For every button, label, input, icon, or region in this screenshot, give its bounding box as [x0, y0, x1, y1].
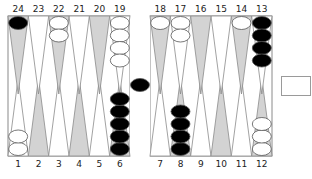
black-checker[interactable]	[110, 118, 129, 131]
point-label-3: 3	[56, 159, 62, 169]
point-label-20: 20	[94, 4, 106, 14]
point-label-2: 2	[36, 159, 42, 169]
point-label-17: 17	[175, 4, 186, 14]
point-label-22: 22	[53, 4, 64, 14]
black-checker[interactable]	[252, 54, 271, 67]
white-checker[interactable]	[171, 29, 190, 42]
point-label-5: 5	[97, 159, 103, 169]
white-checker[interactable]	[252, 143, 271, 156]
point-label-21: 21	[73, 4, 84, 14]
white-checker[interactable]	[49, 17, 68, 30]
point-label-19: 19	[114, 4, 126, 14]
black-checker[interactable]	[9, 17, 28, 30]
black-checker[interactable]	[110, 93, 129, 106]
point-label-7: 7	[157, 159, 163, 169]
white-checker[interactable]	[110, 29, 129, 42]
point-label-16: 16	[195, 4, 207, 14]
white-checker[interactable]	[110, 42, 129, 55]
black-checker[interactable]	[110, 105, 129, 118]
point-label-15: 15	[215, 4, 226, 14]
black-checker[interactable]	[171, 130, 190, 143]
white-checker[interactable]	[49, 29, 68, 42]
black-checker[interactable]	[171, 143, 190, 156]
point-label-11: 11	[236, 159, 247, 169]
white-checker[interactable]	[9, 130, 28, 143]
doubling-cube[interactable]	[281, 76, 311, 96]
point-label-13: 13	[256, 4, 267, 14]
top-point-labels: 242322212019181716151413	[12, 4, 267, 14]
black-checker[interactable]	[252, 29, 271, 42]
white-checker[interactable]	[252, 130, 271, 143]
white-checker[interactable]	[151, 17, 170, 30]
point-label-18: 18	[154, 4, 166, 14]
point-label-14: 14	[236, 4, 248, 14]
point-label-24: 24	[12, 4, 24, 14]
black-checker[interactable]	[110, 130, 129, 143]
point-label-1: 1	[15, 159, 21, 169]
white-checker[interactable]	[110, 54, 129, 67]
black-checker[interactable]	[252, 42, 271, 55]
bar-black-checker[interactable]	[131, 79, 150, 92]
point-label-9: 9	[198, 159, 204, 169]
white-checker[interactable]	[9, 143, 28, 156]
white-checker[interactable]	[171, 17, 190, 30]
white-checker[interactable]	[252, 118, 271, 131]
point-label-12: 12	[256, 159, 267, 169]
black-checker[interactable]	[110, 143, 129, 156]
point-label-6: 6	[117, 159, 123, 169]
backgammon-board: 242322212019181716151413 123456789101112	[0, 0, 312, 179]
point-label-8: 8	[178, 159, 184, 169]
black-checker[interactable]	[171, 118, 190, 131]
white-checker[interactable]	[232, 17, 251, 30]
point-label-10: 10	[215, 159, 227, 169]
black-checker[interactable]	[252, 17, 271, 30]
point-label-4: 4	[76, 159, 82, 169]
white-checker[interactable]	[110, 17, 129, 30]
bottom-point-labels: 123456789101112	[15, 159, 267, 169]
point-label-23: 23	[33, 4, 44, 14]
black-checker[interactable]	[171, 105, 190, 118]
